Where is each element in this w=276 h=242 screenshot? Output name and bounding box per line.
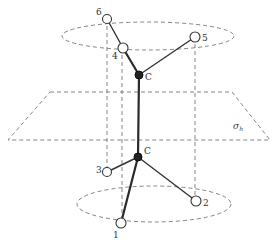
carbon-lower bbox=[134, 153, 142, 161]
label-carbon-upper: C bbox=[145, 72, 152, 82]
bond-c-5 bbox=[139, 37, 195, 75]
molecule-diagram: 6 4 5 C C 3 2 1 σh bbox=[0, 0, 276, 242]
bond-c-1 bbox=[121, 157, 138, 223]
upper-circle bbox=[62, 22, 234, 50]
bond-c-3 bbox=[107, 157, 138, 172]
label-1: 1 bbox=[113, 230, 119, 240]
label-5: 5 bbox=[202, 33, 208, 43]
atom-6 bbox=[103, 15, 112, 24]
atom-3 bbox=[103, 168, 112, 177]
carbon-carbon-bond bbox=[138, 75, 139, 157]
mirror-plane-label: σh bbox=[233, 121, 243, 132]
bond-c-2 bbox=[138, 157, 196, 201]
label-6: 6 bbox=[96, 7, 102, 17]
atom-5 bbox=[190, 32, 200, 42]
label-4: 4 bbox=[112, 51, 118, 61]
label-carbon-lower: C bbox=[144, 146, 151, 156]
label-3: 3 bbox=[96, 165, 102, 175]
label-2: 2 bbox=[203, 198, 209, 208]
atom-4 bbox=[118, 43, 128, 53]
atom-1 bbox=[116, 218, 126, 228]
atom-2 bbox=[191, 196, 201, 206]
carbon-upper bbox=[135, 71, 143, 79]
